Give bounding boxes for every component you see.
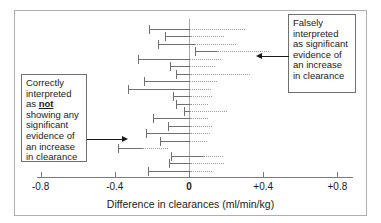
x-axis-title: Difference in clearances (ml/min/kg): [14, 198, 367, 210]
ci-solid-segment: [160, 141, 190, 142]
x-tick-2: [189, 172, 190, 177]
ci-dotted-extension: [190, 163, 224, 164]
ci-dotted-extension: [190, 66, 215, 67]
plot-area: -0.8-0.40+0.4+0.8 Difference in clearanc…: [0, 0, 381, 223]
ci-dotted-extension: [190, 141, 207, 142]
forest-plot-figure: -0.8-0.40+0.4+0.8 Difference in clearanc…: [0, 0, 381, 223]
ci-dotted-extension: [190, 36, 224, 37]
ci-solid-segment: [138, 59, 190, 60]
ci-solid-segment: [148, 171, 190, 172]
ci-dotted-extension: [190, 133, 210, 134]
x-tick-label-4: +0.8: [315, 181, 359, 192]
x-tick-label-0: -0.8: [19, 181, 63, 192]
x-tick-label-1: -0.4: [93, 181, 137, 192]
callout-right-text: Falsely interpreted as significant evide…: [293, 17, 348, 81]
ci-solid-segment: [171, 156, 203, 157]
ci-dotted-extension: [190, 74, 250, 75]
ci-solid-segment: [195, 51, 217, 52]
ci-solid-segment: [168, 126, 190, 127]
ci-dotted-extension: [190, 29, 245, 30]
callout-right-arrow-shaft: [262, 56, 289, 57]
callout-left-arrow-shaft: [87, 139, 123, 140]
ci-solid-segment: [173, 96, 190, 97]
ci-solid-segment: [118, 148, 142, 149]
ci-dotted-extension: [190, 171, 212, 172]
ci-dotted-extension: [190, 118, 208, 119]
ci-dotted-extension: [190, 81, 217, 82]
callout-right-arrow-head-icon: [256, 53, 262, 59]
ci-dotted-extension: [142, 148, 168, 149]
ci-dotted-extension: [190, 104, 209, 105]
callout-left-arrow-head-icon: [122, 136, 128, 142]
ci-solid-segment: [169, 163, 190, 164]
ci-dotted-extension: [190, 89, 211, 90]
ci-solid-segment: [153, 118, 190, 119]
x-tick-label-3: +0.4: [241, 181, 285, 192]
x-tick-1: [115, 172, 116, 177]
ci-solid-segment: [128, 89, 190, 90]
ci-solid-segment: [144, 81, 189, 82]
ci-solid-segment: [149, 29, 190, 30]
ci-dotted-extension: [190, 59, 222, 60]
ci-solid-segment: [176, 104, 190, 105]
callout-false-interpretation: Falsely interpreted as significant evide…: [288, 14, 356, 93]
callout-correct-interpretation: Correctly interpreted as not showing any…: [21, 74, 87, 162]
ci-solid-segment: [146, 133, 190, 134]
ci-solid-segment: [170, 66, 190, 67]
callout-left-text-after: showing any significant evidence of an i…: [26, 109, 79, 162]
confidence-interval-row: [0, 167, 381, 176]
x-tick-label-2: 0: [167, 181, 211, 192]
ci-dotted-extension: [190, 126, 212, 127]
x-tick-4: [337, 172, 338, 177]
x-axis-line: [37, 177, 353, 178]
ci-solid-segment: [158, 44, 194, 45]
ci-solid-segment: [165, 36, 190, 37]
ci-dotted-extension: [203, 156, 223, 157]
callout-left-emphasis: not: [39, 98, 54, 109]
ci-dotted-extension: [195, 44, 237, 45]
ci-dotted-extension: [190, 96, 212, 97]
ci-solid-segment: [176, 74, 190, 75]
x-tick-3: [263, 172, 264, 177]
x-tick-0: [41, 172, 42, 177]
ci-dotted-extension: [190, 111, 227, 112]
